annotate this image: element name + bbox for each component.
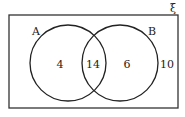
set-a-label: A — [31, 25, 41, 38]
region-only-b: 6 — [124, 58, 131, 71]
region-a-and-b: 14 — [86, 58, 100, 71]
universal-set-symbol: ξ — [170, 2, 176, 15]
region-only-a: 4 — [57, 58, 64, 71]
venn-diagram: ξ A B 4 14 6 10 — [0, 0, 185, 117]
region-outside: 10 — [160, 58, 174, 71]
set-b-label: B — [148, 25, 156, 38]
